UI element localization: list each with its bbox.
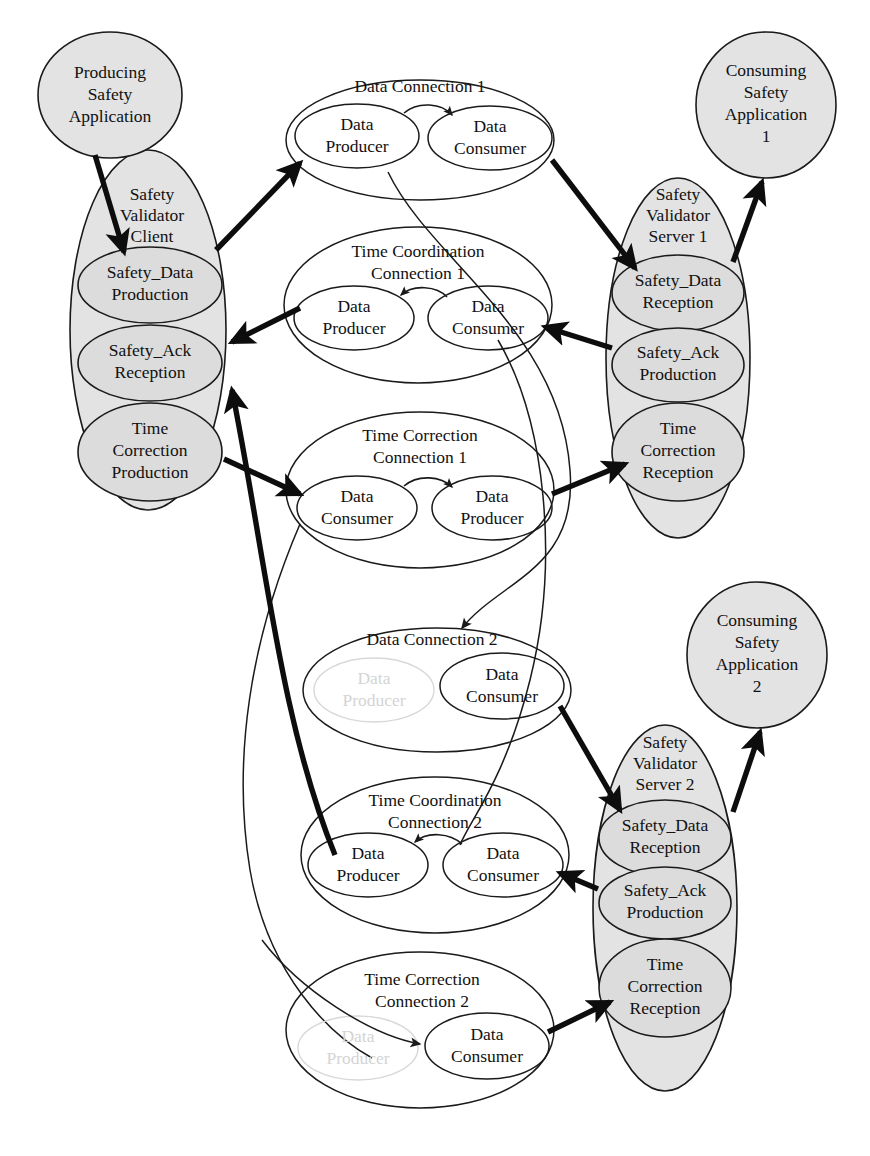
dc1-consumer-line1: Data (473, 116, 506, 136)
csa2-line3: Application (716, 654, 799, 674)
server2-safety-data-reception[interactable]: Safety_Data Reception (599, 800, 731, 876)
edge-s2-sdr-to-csa2 (733, 732, 760, 812)
server1-time-correction-reception[interactable]: Time Correction Reception (612, 403, 744, 501)
svc-title-line1: Safety (130, 184, 175, 204)
consuming-safety-application-2[interactable]: Consuming Safety Application 2 (687, 582, 827, 728)
tcorr1-producer-line2: Producer (460, 508, 523, 528)
tcorr1-producer-line1: Data (475, 486, 508, 506)
s1-tcr-line1: Time (660, 418, 697, 438)
dc2-data-consumer[interactable]: Data Consumer (440, 653, 564, 719)
dc2-consumer-line1: Data (485, 664, 518, 684)
server2-safety-ack-production[interactable]: Safety_Ack Production (599, 867, 731, 939)
s2-tcr-line3: Reception (630, 998, 701, 1018)
dc2-consumer-line2: Consumer (466, 686, 538, 706)
csa2-line1: Consuming (717, 610, 798, 630)
tcorr2-data-consumer[interactable]: Data Consumer (425, 1013, 549, 1079)
svs2-title-line2: Validator (633, 753, 697, 773)
tcoord2-data-producer[interactable]: Data Producer (308, 833, 428, 897)
tcoord1-data-producer[interactable]: Data Producer (294, 286, 414, 350)
psa-line2: Safety (88, 84, 133, 104)
client-safety-data-production[interactable]: Safety_Data Production (78, 247, 222, 323)
tcoord1-consumer-line2: Consumer (452, 318, 524, 338)
s2-tcr-line2: Correction (628, 976, 703, 996)
edge-tcorr1-producer-to-s1-tcr (552, 464, 625, 494)
tcorr2-producer-line2: Producer (326, 1048, 389, 1068)
dc1-producer-line2: Producer (325, 136, 388, 156)
consuming-safety-application-1[interactable]: Consuming Safety Application 1 (696, 32, 836, 178)
tcorr1-consumer-line2: Consumer (321, 508, 393, 528)
edge-tcorr2-consumer-to-s2-tcr (548, 1002, 610, 1032)
psa-line1: Producing (74, 62, 146, 82)
s1-sap-line1: Safety_Ack (637, 342, 720, 362)
tcoord1-producer-line2: Producer (322, 318, 385, 338)
client-sdp-line2: Production (112, 284, 189, 304)
csa1-line2: Safety (744, 82, 789, 102)
s1-tcr-line2: Correction (641, 440, 716, 460)
svs1-title-line2: Validator (646, 205, 710, 225)
tcoord2-producer-line1: Data (351, 843, 384, 863)
tcorr2-consumer-line2: Consumer (451, 1046, 523, 1066)
tcoord1-title-line2: Connection 1 (371, 263, 465, 283)
tcorr1-consumer-line1: Data (340, 486, 373, 506)
client-sar-line1: Safety_Ack (109, 340, 192, 360)
diagram-canvas: Safety Validator Client Safety Validator… (0, 0, 870, 1156)
s2-sap-line2: Production (627, 902, 704, 922)
client-tcp-line2: Correction (113, 440, 188, 460)
data-connection-1-title: Data Connection 1 (354, 76, 485, 96)
dc1-data-producer[interactable]: Data Producer (295, 104, 419, 168)
svc-title-line2: Validator (120, 205, 184, 225)
csa2-line2: Safety (735, 632, 780, 652)
s1-sdr-line1: Safety_Data (635, 270, 722, 290)
tcoord1-title-line1: Time Coordination (351, 241, 484, 261)
csa1-line1: Consuming (726, 60, 807, 80)
tcoord2-producer-line2: Producer (336, 865, 399, 885)
s1-sap-line2: Production (640, 364, 717, 384)
svs2-title-line1: Safety (643, 732, 688, 752)
svc-title-line3: Client (131, 226, 174, 246)
csa2-line4: 2 (753, 676, 762, 696)
s2-sdr-line1: Safety_Data (622, 815, 709, 835)
client-safety-ack-reception[interactable]: Safety_Ack Reception (78, 325, 222, 401)
s1-sdr-line2: Reception (643, 292, 714, 312)
tcorr1-title-line1: Time Correction (362, 425, 478, 445)
safety-validator-diagram: Safety Validator Client Safety Validator… (0, 0, 870, 1156)
edge-dc2-consumer-to-s2-sdr (560, 706, 620, 810)
tcorr1-title-line2: Connection 1 (373, 447, 467, 467)
s2-sap-line1: Safety_Ack (624, 880, 707, 900)
dc1-data-consumer[interactable]: Data Consumer (428, 106, 552, 170)
csa1-line3: Application (725, 104, 808, 124)
s1-tcr-line3: Reception (643, 462, 714, 482)
tcorr2-producer-line1: Data (341, 1026, 374, 1046)
tcorr2-title-line2: Connection 2 (375, 991, 469, 1011)
dc2-producer-line2: Producer (342, 690, 405, 710)
client-tcp-line1: Time (132, 418, 169, 438)
data-connection-2-title: Data Connection 2 (366, 629, 497, 649)
edge-s1-sap-to-tcoord1-consumer (545, 327, 612, 348)
edge-dc1-consumer-to-s1-sdr (552, 160, 635, 268)
client-time-correction-production[interactable]: Time Correction Production (78, 403, 222, 501)
tcoord2-consumer-line1: Data (486, 843, 519, 863)
csa1-line4: 1 (762, 126, 771, 146)
edge-s1-sdr-to-csa1 (733, 182, 762, 262)
svs2-title-line3: Server 2 (636, 774, 695, 794)
tcorr1-data-consumer[interactable]: Data Consumer (297, 476, 417, 540)
edge-s2-sap-to-tcoord2-consumer (560, 873, 598, 889)
producing-safety-application[interactable]: Producing Safety Application (38, 32, 182, 158)
psa-line3: Application (69, 106, 152, 126)
edge-client-sdp-to-dc1-producer (216, 163, 300, 250)
server1-safety-ack-production[interactable]: Safety_Ack Production (612, 328, 744, 402)
svs1-title-line1: Safety (656, 184, 701, 204)
client-sdp-line1: Safety_Data (107, 262, 194, 282)
s2-tcr-line1: Time (647, 954, 684, 974)
svs1-title-line3: Server 1 (649, 226, 708, 246)
dc1-consumer-line2: Consumer (454, 138, 526, 158)
client-tcp-line3: Production (112, 462, 189, 482)
tcoord2-consumer-line2: Consumer (467, 865, 539, 885)
tcorr2-title-line1: Time Correction (364, 969, 480, 989)
tcoord2-title-line1: Time Coordination (368, 790, 501, 810)
dc2-producer-line1: Data (357, 668, 390, 688)
server2-time-correction-reception[interactable]: Time Correction Reception (599, 939, 731, 1037)
dc1-producer-line1: Data (340, 114, 373, 134)
client-sar-line2: Reception (115, 362, 186, 382)
tcorr2-consumer-line1: Data (470, 1024, 503, 1044)
